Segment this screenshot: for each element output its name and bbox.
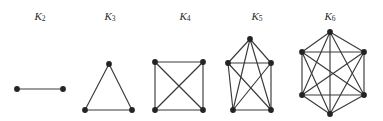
graph-edge xyxy=(85,64,109,110)
graph-label-k6: K6 xyxy=(323,10,335,24)
graph-vertex xyxy=(361,49,367,55)
graph-vertex xyxy=(361,92,367,98)
graph-k6: K6 xyxy=(299,10,367,117)
graph-k4: K4 xyxy=(152,10,206,113)
graph-vertex xyxy=(230,107,236,113)
graph-vertex xyxy=(327,111,333,117)
graph-label-k3: K3 xyxy=(103,10,115,24)
graph-edge xyxy=(109,64,132,110)
graph-vertex xyxy=(299,49,305,55)
graph-edge xyxy=(228,63,233,110)
graph-label-k2: K2 xyxy=(33,10,45,24)
graph-k2: K2 xyxy=(14,10,66,92)
complete-graphs-figure: K2K3K4K5K6 xyxy=(0,0,383,121)
edge-group-k4 xyxy=(155,62,203,110)
edge-group-k6 xyxy=(302,32,364,114)
graph-vertex xyxy=(129,107,135,113)
graph-vertex xyxy=(82,107,88,113)
graph-k3: K3 xyxy=(82,10,135,113)
graph-vertex xyxy=(268,107,274,113)
graph-vertex xyxy=(14,86,20,92)
vertex-group-k3 xyxy=(82,61,135,113)
graph-vertex xyxy=(327,29,333,35)
graph-vertex xyxy=(200,59,206,65)
graph-vertex xyxy=(299,92,305,98)
graph-label-k4: K4 xyxy=(178,10,190,24)
graph-vertex xyxy=(152,59,158,65)
graph-vertex xyxy=(152,107,158,113)
graph-canvas: K2K3K4K5K6 xyxy=(0,0,383,121)
graph-label-k5: K5 xyxy=(250,10,262,24)
graph-vertex xyxy=(247,36,253,42)
graph-k5: K5 xyxy=(225,10,274,113)
graph-vertex xyxy=(268,60,274,66)
graph-vertex xyxy=(60,86,66,92)
graph-vertex xyxy=(200,107,206,113)
edge-group-k5 xyxy=(228,39,271,110)
graph-vertex xyxy=(225,60,231,66)
edge-group-k3 xyxy=(85,64,132,110)
graph-vertex xyxy=(106,61,112,67)
